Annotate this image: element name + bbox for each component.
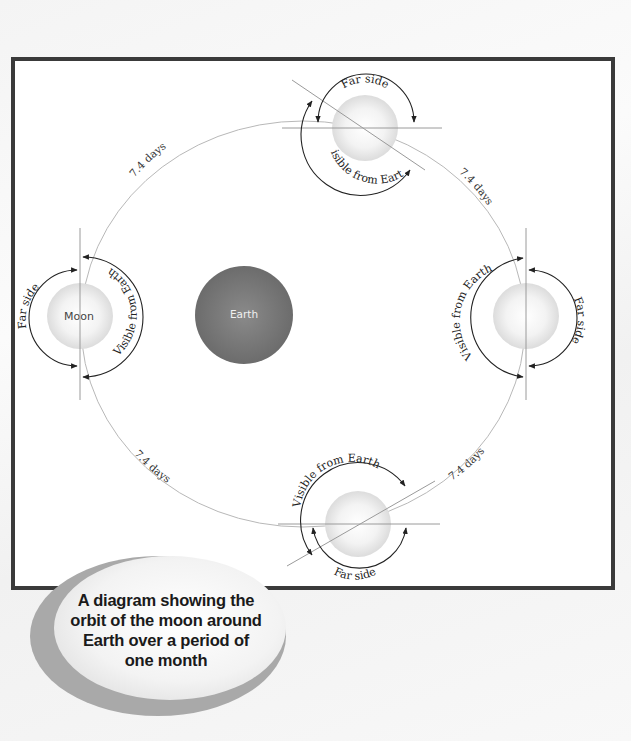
earth-label: Earth xyxy=(230,308,258,320)
caption-text: A diagram showing the orbit of the moon … xyxy=(60,590,272,670)
caption-line: orbit of the moon around xyxy=(60,610,272,630)
moon-label: Moon xyxy=(64,310,94,323)
caption-line: Earth over a period of xyxy=(60,630,272,650)
caption-line: one month xyxy=(60,650,272,670)
caption-line: A diagram showing the xyxy=(60,590,272,610)
earth: Earth xyxy=(195,266,293,364)
